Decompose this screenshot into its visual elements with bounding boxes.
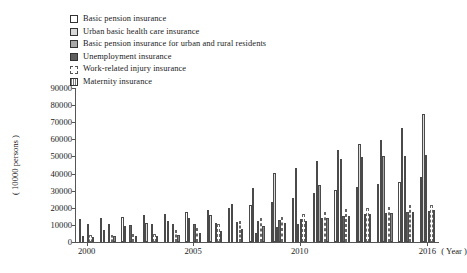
legend-label: Maternity insurance bbox=[83, 78, 152, 86]
bar[interactable] bbox=[369, 214, 371, 242]
bar-groups bbox=[76, 88, 438, 242]
y-axis-tick-label: 20000 bbox=[28, 203, 76, 213]
bar[interactable] bbox=[433, 210, 435, 242]
bar[interactable] bbox=[188, 218, 190, 242]
y-axis-tick-mark bbox=[72, 122, 76, 123]
y-axis-tick-label: 60000 bbox=[28, 134, 76, 144]
y-axis-tick-mark bbox=[72, 242, 76, 243]
bar-group bbox=[182, 88, 203, 242]
bar[interactable] bbox=[199, 233, 201, 242]
chart-legend: Basic pension insuranceUrban basic healt… bbox=[70, 13, 266, 89]
bar-group bbox=[417, 88, 438, 242]
legend-swatch-icon bbox=[70, 53, 78, 61]
x-axis-tick-mark bbox=[193, 242, 194, 246]
bar[interactable] bbox=[145, 223, 147, 242]
y-axis-tick-label: 90000 bbox=[28, 83, 76, 93]
y-axis-title: ( 10000 persons ) bbox=[8, 88, 22, 242]
legend-item-2[interactable]: Basic pension insurance for urban and ru… bbox=[70, 38, 266, 51]
legend-label: Work-related injury insurance bbox=[83, 65, 186, 73]
bar[interactable] bbox=[124, 226, 126, 242]
bar[interactable] bbox=[156, 236, 158, 242]
y-axis-tick-label: 80000 bbox=[28, 100, 76, 110]
legend-label: Basic pension insurance bbox=[83, 15, 166, 23]
x-axis-tick-label: 2016 bbox=[419, 246, 436, 256]
y-axis-title-text: ( 10000 persons ) bbox=[10, 135, 20, 195]
bar[interactable] bbox=[220, 231, 222, 242]
bar-group bbox=[119, 88, 140, 242]
legend-swatch-icon bbox=[70, 15, 78, 23]
legend-item-1[interactable]: Urban basic health care insurance bbox=[70, 26, 266, 39]
bar[interactable] bbox=[177, 235, 179, 243]
bar-group bbox=[97, 88, 118, 242]
y-axis-tick-mark bbox=[72, 174, 76, 175]
legend-item-4[interactable]: Work-related injury insurance bbox=[70, 63, 266, 76]
bar[interactable] bbox=[262, 226, 264, 242]
x-axis-tick-label: 2000 bbox=[78, 246, 95, 256]
bar-group bbox=[332, 88, 353, 242]
bar-group bbox=[225, 88, 246, 242]
x-axis-tick-label: 2010 bbox=[291, 246, 308, 256]
bar-group bbox=[76, 88, 97, 242]
legend-swatch-icon bbox=[70, 40, 78, 48]
bar[interactable] bbox=[305, 221, 307, 242]
y-axis-tick-label: 40000 bbox=[28, 169, 76, 179]
y-axis-tick-label: 10000 bbox=[28, 220, 76, 230]
legend-item-0[interactable]: Basic pension insurance bbox=[70, 13, 266, 26]
y-axis-tick-label: 50000 bbox=[28, 151, 76, 161]
legend-swatch-icon bbox=[70, 28, 78, 36]
x-axis-title: ( Year ) bbox=[441, 246, 467, 256]
y-axis-tick-mark bbox=[72, 105, 76, 106]
bar[interactable] bbox=[326, 218, 328, 242]
bar-group bbox=[353, 88, 374, 242]
bar-group bbox=[374, 88, 395, 242]
bar-group bbox=[289, 88, 310, 242]
legend-item-5[interactable]: Maternity insurance bbox=[70, 76, 266, 89]
bar-group bbox=[140, 88, 161, 242]
x-axis-tick-label: 2005 bbox=[185, 246, 202, 256]
bar[interactable] bbox=[103, 230, 105, 242]
bar[interactable] bbox=[92, 237, 94, 242]
bar[interactable] bbox=[231, 204, 233, 242]
bar-group bbox=[246, 88, 267, 242]
bar[interactable] bbox=[82, 236, 84, 242]
bar[interactable] bbox=[241, 229, 243, 242]
bar[interactable] bbox=[348, 216, 350, 242]
bar[interactable] bbox=[209, 215, 211, 242]
bar[interactable] bbox=[284, 223, 286, 242]
legend-label: Basic pension insurance for urban and ru… bbox=[83, 40, 266, 48]
legend-swatch-icon bbox=[70, 66, 78, 74]
bar-group bbox=[268, 88, 289, 242]
y-axis-tick-label: 30000 bbox=[28, 186, 76, 196]
bar[interactable] bbox=[412, 212, 414, 242]
bar-group bbox=[310, 88, 331, 242]
x-axis-tick-mark bbox=[427, 242, 428, 246]
bar[interactable] bbox=[113, 236, 115, 242]
y-axis-tick-mark bbox=[72, 208, 76, 209]
legend-item-3[interactable]: Unemployment insurance bbox=[70, 51, 266, 64]
x-axis-tick-mark bbox=[300, 242, 301, 246]
y-axis-tick-mark bbox=[72, 156, 76, 157]
y-axis-tick-mark bbox=[72, 225, 76, 226]
x-axis-line bbox=[75, 242, 439, 243]
y-axis-tick-label: 0 bbox=[28, 237, 76, 247]
legend-label: Unemployment insurance bbox=[83, 53, 172, 61]
y-axis-tick-label: 70000 bbox=[28, 117, 76, 127]
y-axis-tick-mark bbox=[72, 139, 76, 140]
legend-label: Urban basic health care insurance bbox=[83, 28, 199, 36]
bar[interactable] bbox=[167, 221, 169, 242]
y-axis-tick-mark bbox=[72, 88, 76, 89]
plot-area bbox=[76, 88, 438, 242]
bar-group bbox=[161, 88, 182, 242]
bar[interactable] bbox=[135, 236, 137, 242]
x-axis-tick-mark bbox=[87, 242, 88, 246]
y-axis-tick-mark bbox=[72, 191, 76, 192]
bar-group bbox=[395, 88, 416, 242]
bar[interactable] bbox=[390, 213, 392, 242]
bar-group bbox=[204, 88, 225, 242]
